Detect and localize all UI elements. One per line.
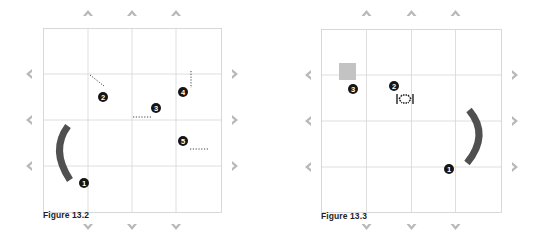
marker-5: 5 xyxy=(178,136,188,146)
marker-2: 2 xyxy=(98,92,108,102)
dotted-guides xyxy=(90,71,208,149)
arrow-left-icon xyxy=(26,69,32,79)
arrow-down-icon xyxy=(83,224,93,230)
svg-text:3: 3 xyxy=(154,104,158,113)
marker-1: 1 xyxy=(79,178,89,188)
right-arrow-icons xyxy=(512,70,518,172)
arrow-down-icon xyxy=(127,224,137,230)
svg-text:2: 2 xyxy=(101,93,105,102)
marker-4: 4 xyxy=(178,87,188,97)
svg-text:3: 3 xyxy=(351,85,355,94)
arrow-left-icon xyxy=(305,116,311,126)
arrow-left-icon xyxy=(305,70,311,80)
arrow-up-icon xyxy=(127,10,137,16)
svg-text:2: 2 xyxy=(392,82,396,91)
left-arrow-icons xyxy=(305,70,311,172)
arrow-down-icon xyxy=(171,224,181,230)
figure-13-3-canvas: 1 2 3 xyxy=(278,0,539,245)
svg-text:5: 5 xyxy=(181,137,185,146)
bottom-arrow-icons xyxy=(362,224,461,230)
arrow-down-icon xyxy=(451,224,461,230)
arrow-right-icon xyxy=(512,162,518,172)
arrow-right-icon xyxy=(232,115,238,125)
svg-text:1: 1 xyxy=(82,179,86,188)
arrow-up-icon xyxy=(171,10,181,16)
arrow-down-icon xyxy=(362,224,372,230)
figure-13-3: 1 2 3 Figure 13.3 xyxy=(278,0,539,245)
top-arrow-icons xyxy=(362,10,461,16)
arc-shape xyxy=(59,126,70,180)
figure-caption: Figure 13.3 xyxy=(321,211,367,221)
grid xyxy=(44,29,222,213)
arrow-up-icon xyxy=(362,10,372,16)
top-arrow-icons xyxy=(83,10,181,16)
arrow-right-icon xyxy=(512,116,518,126)
arrow-right-icon xyxy=(232,69,238,79)
arrow-left-icon xyxy=(26,161,32,171)
arrow-right-icon xyxy=(232,161,238,171)
arrow-up-icon xyxy=(407,10,417,16)
bottom-arrow-icons xyxy=(83,224,181,230)
arrow-down-icon xyxy=(407,224,417,230)
arrow-left-icon xyxy=(26,115,32,125)
arrow-right-icon xyxy=(512,70,518,80)
marker-3: 3 xyxy=(151,103,161,113)
figure-13-2-canvas: 1 2 3 4 5 xyxy=(0,0,270,245)
marker-3: 3 xyxy=(348,84,358,94)
svg-text:1: 1 xyxy=(447,165,451,174)
marker-2: 2 xyxy=(389,81,399,91)
gray-square-shape xyxy=(339,63,356,80)
arrow-up-icon xyxy=(83,10,93,16)
figure-13-2: 1 2 3 4 5 Figure 13.2 xyxy=(0,0,270,245)
dotted-guide-2 xyxy=(90,75,104,86)
right-arrow-icons xyxy=(232,69,238,171)
arc-shape xyxy=(467,110,479,163)
marker-1: 1 xyxy=(444,164,454,174)
arrow-up-icon xyxy=(451,10,461,16)
figure-caption: Figure 13.2 xyxy=(43,210,89,220)
left-arrow-icons xyxy=(26,69,32,171)
arrow-left-icon xyxy=(305,162,311,172)
move-cursor-icon xyxy=(397,94,413,104)
